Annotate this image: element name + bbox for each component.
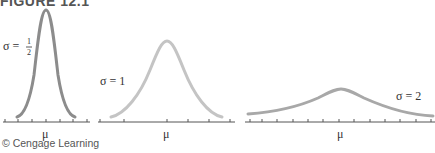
mu-label-3: μ bbox=[337, 127, 343, 141]
panel-1-axis bbox=[3, 119, 90, 122]
panel-3-axis bbox=[245, 119, 435, 122]
curve-sigma-half bbox=[17, 10, 75, 117]
normal-curves-chart: σ = 1 2 σ = 1 σ = 2 μ μ μ bbox=[0, 0, 435, 153]
label-sigma-half-numerator: 1 bbox=[27, 37, 31, 46]
label-sigma-two: σ = 2 bbox=[396, 89, 421, 103]
copyright-credit: © Cengage Learning bbox=[2, 137, 99, 149]
label-sigma-one: σ = 1 bbox=[100, 74, 125, 88]
mu-label-2: μ bbox=[163, 127, 169, 141]
curve-sigma-one bbox=[111, 41, 222, 117]
label-sigma-half-denominator: 2 bbox=[27, 48, 31, 57]
panel-2-axis bbox=[98, 119, 235, 122]
label-sigma-half: σ = bbox=[3, 39, 19, 53]
